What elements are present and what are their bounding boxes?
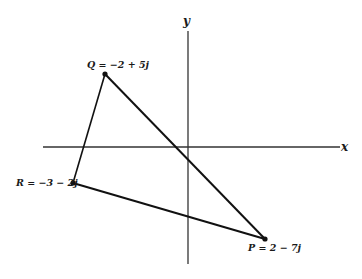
point-p-marker — [262, 236, 267, 241]
y-axis-label: y — [182, 14, 191, 28]
point-p-label: P = 2 − 7j — [247, 242, 302, 253]
point-r-label: R = −3 − 2j — [15, 177, 78, 188]
point-q-label: Q = −2 + 5j — [87, 59, 150, 70]
edge-q-p — [105, 74, 265, 239]
argand-diagram: x y Q = −2 + 5j R = −3 − 2j P = 2 − 7j — [0, 0, 362, 279]
x-axis-label: x — [340, 140, 349, 154]
edge-p-r — [73, 183, 265, 239]
edge-r-q — [73, 74, 105, 183]
point-q-marker — [102, 71, 107, 76]
